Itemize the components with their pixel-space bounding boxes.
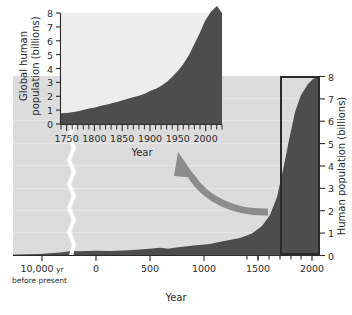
y-tick-label-inset-3: 3 bbox=[47, 77, 53, 88]
y-tick-label-inset-1: 1 bbox=[47, 105, 53, 116]
inset-y-axis-title: Global humanpopulation (billions) bbox=[18, 11, 42, 121]
inset-y-axis-title-line1: Global human bbox=[18, 31, 29, 101]
x-tick-label-inset-2: 1850 bbox=[110, 133, 134, 144]
human-population-growth-figure: 10,000 yr before present 0 500 1000 1500… bbox=[0, 0, 352, 315]
y-tick-label-inset-7: 7 bbox=[47, 21, 53, 32]
x-tick-label-inset-3: 1900 bbox=[138, 133, 162, 144]
x-tick-label-inset-4: 1950 bbox=[166, 133, 190, 144]
y-tick-label-inset-6: 6 bbox=[47, 35, 53, 46]
y-tick-label-inset-5: 5 bbox=[47, 49, 53, 60]
inset-x-minor-ticks bbox=[61, 125, 222, 130]
inset-x-axis-title: Year bbox=[131, 147, 152, 158]
y-tick-label-inset-4: 4 bbox=[47, 63, 53, 74]
y-tick-label-inset-2: 2 bbox=[47, 91, 53, 102]
x-tick-label-inset-1: 1800 bbox=[82, 133, 106, 144]
inset-population-area bbox=[61, 6, 222, 124]
inset-chart-svg bbox=[0, 0, 352, 315]
inset-y-axis-title-line2: population (billions) bbox=[30, 16, 41, 115]
y-tick-label-inset-0: 0 bbox=[47, 119, 53, 130]
y-tick-label-inset-8: 8 bbox=[47, 8, 53, 19]
x-tick-label-inset-0: 1750 bbox=[55, 133, 79, 144]
x-tick-label-inset-5: 2000 bbox=[194, 133, 218, 144]
